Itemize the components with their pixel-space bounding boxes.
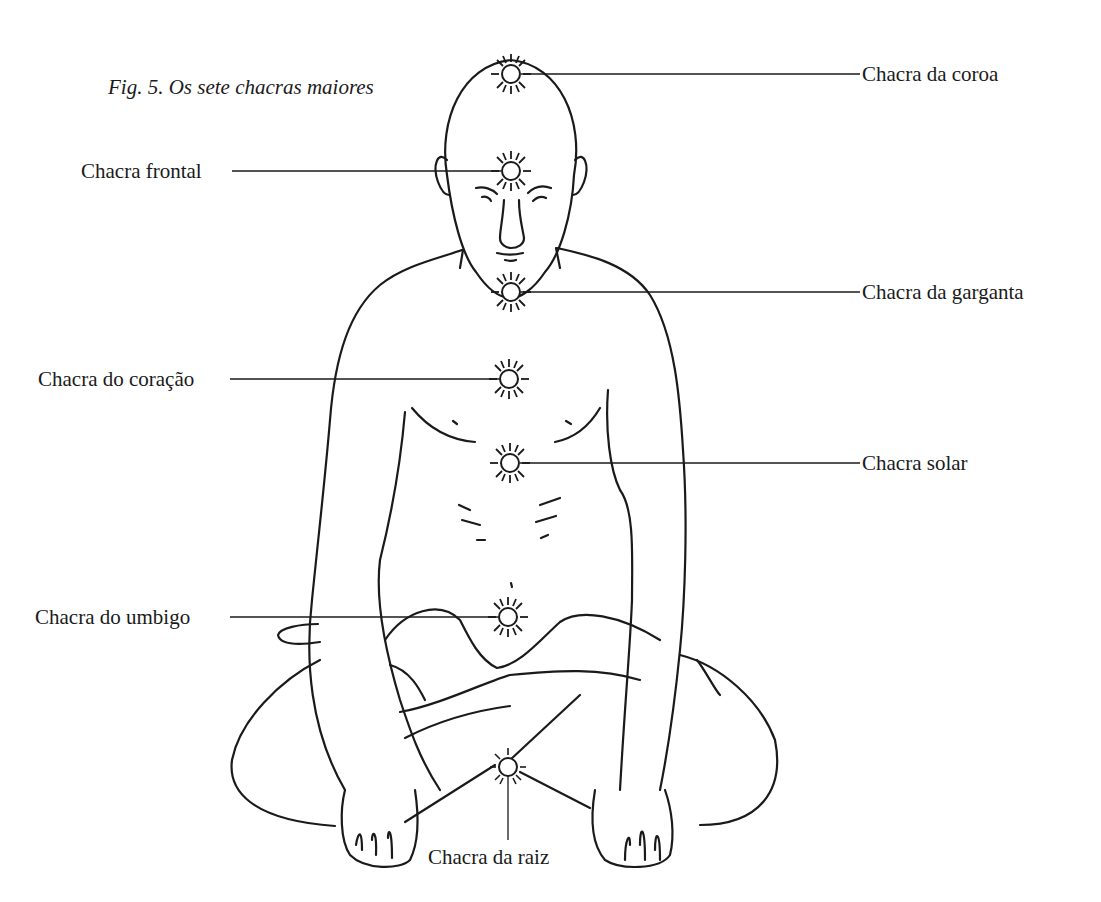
label-solar-chakra: Chacra solar	[862, 453, 968, 474]
chakra-throat-icon	[491, 272, 531, 312]
leader-lines	[230, 74, 860, 840]
chakra-solar-icon	[490, 443, 530, 483]
chakra-navel-icon	[488, 597, 528, 637]
label-root-chakra: Chacra da raiz	[428, 847, 549, 868]
label-heart-chakra: Chacra do coração	[38, 369, 194, 390]
label-frontal-chakra: Chacra frontal	[81, 161, 202, 182]
label-crown-chakra: Chacra da coroa	[862, 64, 998, 85]
chakra-heart-icon	[489, 359, 529, 399]
label-throat-chakra: Chacra da garganta	[862, 282, 1024, 303]
chakra-crown-icon	[491, 54, 531, 94]
label-navel-chakra: Chacra do umbigo	[35, 607, 190, 628]
chakra-frontal-icon	[491, 151, 531, 191]
